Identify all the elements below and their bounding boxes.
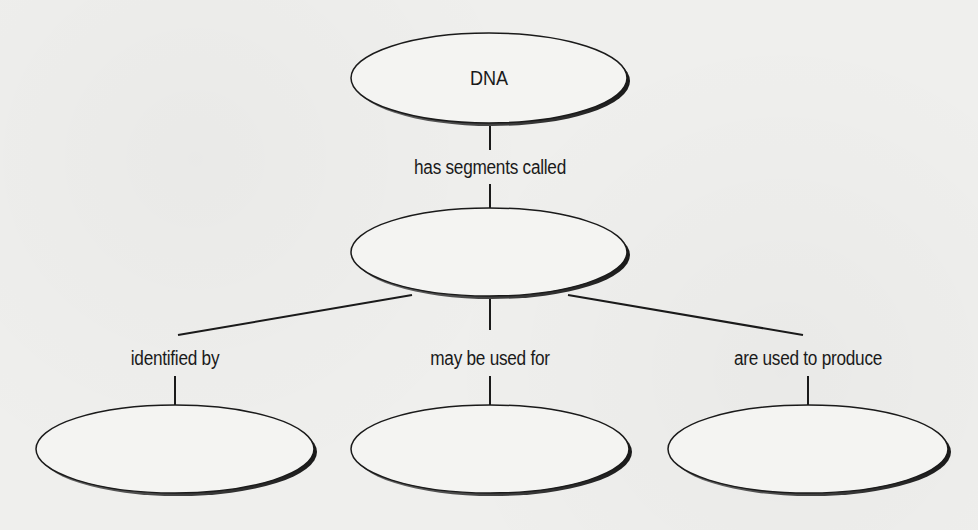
node-dna-text: DNA <box>470 66 508 90</box>
connector-segments-to-identified <box>178 295 412 335</box>
node-identified-by-target <box>36 405 317 496</box>
connector-segments-to-produce <box>568 295 803 335</box>
node-may-be-used-for-target <box>351 405 632 496</box>
concept-map-canvas: DNA has segments called identified by ma… <box>0 0 978 530</box>
node-are-used-to-produce-target <box>668 405 951 496</box>
link-label-are-used-to-produce: are used to produce <box>734 347 882 370</box>
link-label-identified-by: identified by <box>131 347 219 370</box>
link-label-may-be-used-for: may be used for <box>430 347 549 370</box>
node-segments <box>351 208 630 299</box>
link-label-has-segments-called: has segments called <box>414 156 566 179</box>
